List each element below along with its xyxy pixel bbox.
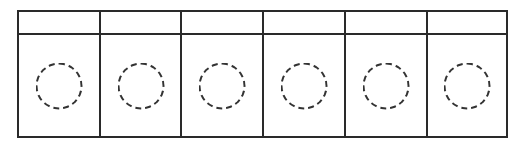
header-label	[19, 12, 99, 33]
header-cell-5	[346, 12, 428, 33]
body-cell-1	[19, 35, 101, 136]
body-cell-5	[346, 35, 428, 136]
body-cell-3	[182, 35, 264, 136]
six-column-grid	[17, 10, 508, 138]
header-label	[428, 12, 506, 33]
header-cell-6	[428, 12, 506, 33]
header-cell-2	[101, 12, 182, 33]
dashed-circle-icon	[36, 62, 83, 109]
header-cell-4	[264, 12, 346, 33]
header-cell-1	[19, 12, 101, 33]
body-cell-2	[101, 35, 182, 136]
dashed-circle-icon	[117, 62, 164, 109]
dashed-circle-icon	[444, 62, 491, 109]
body-cell-6	[428, 35, 506, 136]
body-row	[19, 35, 506, 136]
header-label	[182, 12, 262, 33]
body-cell-4	[264, 35, 346, 136]
dashed-circle-icon	[199, 62, 246, 109]
header-label	[101, 12, 180, 33]
dashed-circle-icon	[281, 62, 328, 109]
header-label	[264, 12, 344, 33]
header-row	[19, 12, 506, 35]
dashed-circle-icon	[363, 62, 410, 109]
header-cell-3	[182, 12, 264, 33]
header-label	[346, 12, 426, 33]
